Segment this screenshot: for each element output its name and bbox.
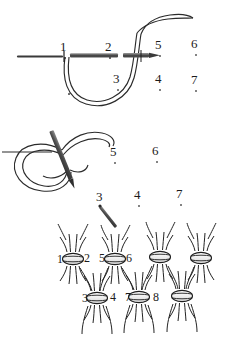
knot-top-1 xyxy=(60,234,86,284)
label-2-panel-top: 2 xyxy=(105,40,112,53)
panel-bottom-artwork xyxy=(58,222,216,334)
knot-top-4 xyxy=(188,233,214,283)
label-3-panel-middle: 3 xyxy=(96,190,103,203)
link-strand-c xyxy=(122,268,134,290)
label-7-panel-top: 7 xyxy=(191,73,198,86)
thread-loop-outer xyxy=(64,34,141,106)
panel-top-artwork xyxy=(18,14,193,105)
label-7-panel-bottom: 7 xyxy=(125,291,131,304)
tail-d xyxy=(148,305,154,333)
label-5-panel-top: 5 xyxy=(155,38,162,51)
label-4-panel-bottom: 4 xyxy=(110,291,116,304)
loop-lower-strand xyxy=(43,171,67,178)
label-6-panel-bottom: 6 xyxy=(126,252,132,265)
label-8-panel-bottom: 8 xyxy=(153,291,159,304)
label-7-panel-middle: 7 xyxy=(176,187,183,200)
label-4-panel-middle: 4 xyxy=(134,188,141,201)
label-1-panel-top: 1 xyxy=(60,40,67,53)
label-5-panel-middle: 5 xyxy=(110,145,117,158)
antenna-d xyxy=(122,225,130,240)
label-3-panel-top: 3 xyxy=(113,72,120,85)
thread-loop-inner xyxy=(68,33,137,101)
tail-a xyxy=(82,306,88,334)
label-5-panel-bottom: 5 xyxy=(99,252,105,265)
tail-f xyxy=(191,304,197,332)
panel-middle-artwork xyxy=(2,130,117,228)
suture-diagram-figure: 1 2 5 6 3 4 7 5 6 3 4 7 1 2 5 6 3 4 7 8 xyxy=(0,0,228,352)
tail-e xyxy=(167,304,173,332)
loop-return-curl xyxy=(70,165,88,172)
label-4-panel-top: 4 xyxy=(155,72,162,85)
antenna-f xyxy=(167,222,175,238)
thread-tail-inner xyxy=(137,18,193,33)
antenna-a xyxy=(58,224,66,240)
label-6-panel-top: 6 xyxy=(191,37,198,50)
small-needle-point-3 xyxy=(98,204,117,228)
label-2-panel-bottom: 2 xyxy=(84,252,90,265)
knot-top-2 xyxy=(102,234,128,284)
label-1-panel-bottom: 1 xyxy=(57,253,63,266)
needle-shaft-2 xyxy=(123,53,149,58)
tail-b xyxy=(106,306,112,334)
link-strand-e xyxy=(168,266,178,289)
antenna-b xyxy=(80,224,88,240)
label-6-panel-middle: 6 xyxy=(152,144,159,157)
antenna-h xyxy=(208,223,216,239)
tail-c xyxy=(124,305,130,333)
label-3-panel-bottom: 3 xyxy=(82,292,88,305)
